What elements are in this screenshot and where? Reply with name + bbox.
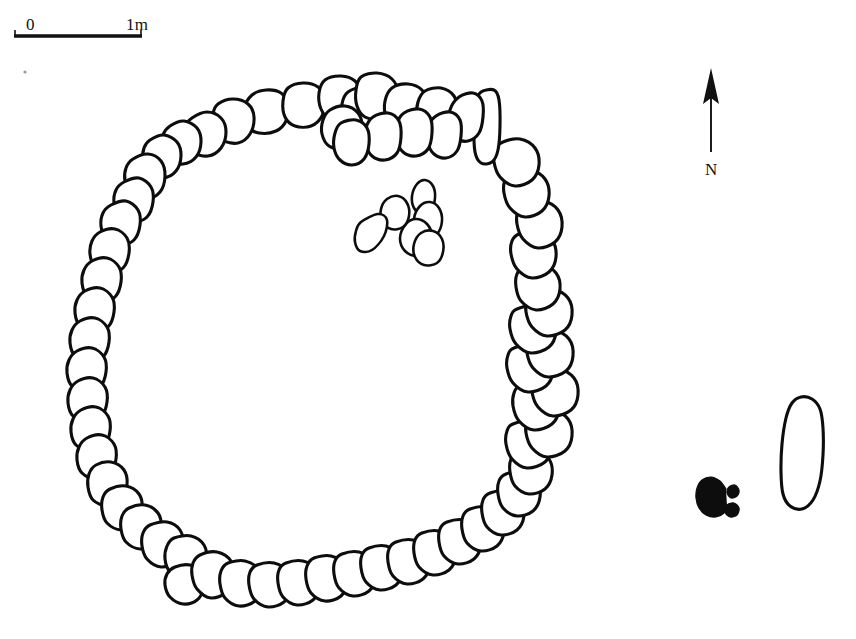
central-cluster (355, 180, 444, 265)
scale-bar-end-label: 1m (126, 16, 148, 33)
small-ring-setting (696, 477, 739, 517)
small-ring-setting-arc (696, 477, 727, 517)
site-plan-drawing (0, 0, 856, 639)
scale-bar-start-label: 0 (26, 16, 35, 33)
small-ring-inner-stone-2 (725, 503, 739, 517)
scan-speck (23, 70, 26, 73)
small-ring-inner-stone-1 (727, 485, 739, 498)
ring-stone-56 (494, 139, 540, 186)
cluster-stone-6 (355, 214, 388, 252)
cluster-stone-4 (413, 231, 443, 266)
outlying-slab-outline (781, 397, 823, 510)
main-stone-ring (67, 73, 578, 607)
north-arrow-label: N (705, 161, 717, 178)
outlying-slab (781, 397, 823, 510)
ring-stone-62 (334, 120, 370, 165)
site-plan-figure: 0 1m N (0, 0, 856, 639)
north-arrow (703, 68, 719, 152)
